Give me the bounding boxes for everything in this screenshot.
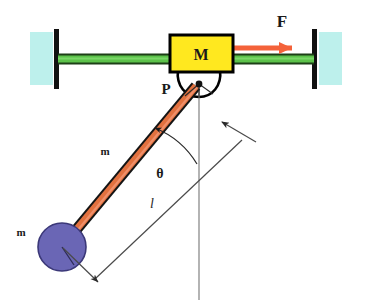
force-label: F xyxy=(277,12,287,31)
pivot-dot xyxy=(196,81,203,88)
diagram-canvas: F M m m P xyxy=(0,0,371,304)
length-dimension-upper-tick xyxy=(222,122,256,142)
length-dimension-line xyxy=(96,140,242,278)
rod-highlight xyxy=(67,87,197,243)
bob-mass-label: m xyxy=(16,226,25,238)
pivot-label: P xyxy=(161,81,170,97)
length-dimension xyxy=(63,122,256,282)
wall-left-hatch xyxy=(30,32,53,85)
cart-mass-label: M xyxy=(193,46,208,63)
rod-mass-label: m xyxy=(100,145,109,157)
pendulum-cart-diagram: F M m m P xyxy=(0,0,371,304)
wall-left xyxy=(30,29,59,89)
pendulum-rod xyxy=(66,86,197,243)
rod-fill xyxy=(66,86,196,242)
length-label: l xyxy=(150,196,154,211)
wall-right xyxy=(312,29,342,89)
angle-label: θ xyxy=(156,166,163,181)
wall-right-hatch xyxy=(319,32,342,85)
